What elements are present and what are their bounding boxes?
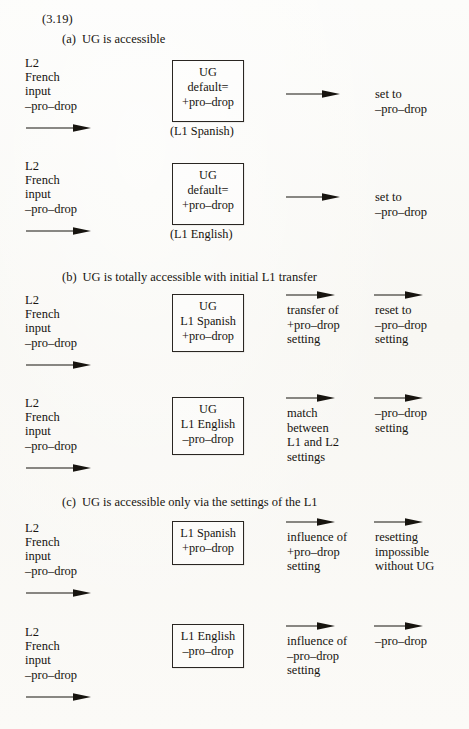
input-line: L2 [25,396,77,410]
step-line: setting [287,663,347,678]
step-line: resetting [375,530,434,545]
transition-arrow-c1-2 [373,516,423,528]
step-column-b1-2: reset to –pro–drop setting [375,303,427,347]
input-line: L2 [25,159,77,173]
ug-box-line: +pro–drop [173,329,243,344]
step-line: +pro–drop [287,545,347,560]
outcome-column-a2: set to –pro–drop [375,190,427,219]
example-number: (3.19) [42,12,73,27]
section-heading-b: (b)UG is totally accessible with initial… [62,270,317,285]
transition-arrow-b1-2 [373,289,423,301]
outcome-line: –pro–drop [375,102,427,117]
l1-box-c2: L1 English –pro–drop [172,624,244,668]
ug-box-line: UG [173,168,243,183]
outcome-column-a1: set to –pro–drop [375,87,427,116]
step-column-b2-2: –pro–drop setting [375,406,427,435]
input-line: –pro–drop [25,202,77,216]
section-label-c: (c) [62,495,76,509]
step-line: without UG [375,559,434,574]
input-line: –pro–drop [25,99,77,113]
l1-box-line: L1 English [173,629,243,644]
step-line: settings [287,450,339,465]
input-line: input [25,321,77,335]
section-heading-a: (a)UG is accessible [62,32,165,47]
step-line: –pro–drop [287,649,347,664]
outcome-line: –pro–drop [375,205,427,220]
step-line: –pro–drop [375,634,427,649]
input-line: L2 [25,293,77,307]
transition-arrow-b2-1 [285,392,335,404]
outcome-line: set to [375,87,427,102]
input-arrow-b2 [25,462,91,474]
ug-box-line: UG [173,65,243,80]
step-line: L1 and L2 [287,435,339,450]
step-line: influence of [287,530,347,545]
input-column-c1: L2 French input –pro–drop [25,521,77,578]
input-line: input [25,187,77,201]
step-line: impossible [375,545,434,560]
transition-arrow-c2-2 [373,620,423,632]
ug-box-b1: UG L1 Spanish +pro–drop [172,294,244,352]
step-column-c2-1: influence of –pro–drop setting [287,634,347,678]
input-column-c2: L2 French input –pro–drop [25,625,77,682]
input-column-b2: L2 French input –pro–drop [25,396,77,453]
transition-arrow-c1-1 [285,516,335,528]
input-line: French [25,307,77,321]
input-line: French [25,173,77,187]
step-line: –pro–drop [375,406,427,421]
section-title-c: UG is accessible only via the settings o… [82,495,318,509]
input-line: input [25,653,77,667]
input-line: –pro–drop [25,668,77,682]
outcome-line: set to [375,190,427,205]
section-title-a: UG is accessible [82,32,165,46]
step-column-b1-1: transfer of +pro–drop setting [287,303,340,347]
ug-box-line: +pro–drop [173,198,243,213]
step-line: match [287,406,339,421]
ug-box-a1: UG default= +pro–drop [172,60,244,122]
l1-box-line: L1 Spanish [173,526,243,541]
step-column-c1-2: resetting impossible without UG [375,530,434,574]
step-line: influence of [287,634,347,649]
section-label-a: (a) [62,32,76,46]
transition-arrow-a1 [285,88,340,100]
input-line: French [25,639,77,653]
transition-arrow-c2-1 [285,620,335,632]
input-column-b1: L2 French input –pro–drop [25,293,77,350]
input-line: L2 [25,56,77,70]
step-line: transfer of [287,303,340,318]
input-line: L2 [25,625,77,639]
input-line: French [25,410,77,424]
section-label-b: (b) [62,270,77,284]
step-line: setting [287,332,340,347]
ug-box-caption-a2: (L1 English) [170,227,233,242]
l1-box-line: +pro–drop [173,541,243,556]
step-column-b2-1: match between L1 and L2 settings [287,406,339,464]
ug-box-line: L1 English [173,417,243,432]
ug-box-line: UG [173,299,243,314]
l1-box-c1: L1 Spanish +pro–drop [172,521,244,565]
step-line: setting [375,421,427,436]
input-line: –pro–drop [25,336,77,350]
ug-box-line: default= [173,183,243,198]
input-line: L2 [25,521,77,535]
step-line: +pro–drop [287,318,340,333]
transition-arrow-b2-2 [373,392,423,404]
step-line: –pro–drop [375,318,427,333]
step-line: setting [375,332,427,347]
input-line: –pro–drop [25,439,77,453]
transition-arrow-b1-1 [285,289,335,301]
input-line: French [25,535,77,549]
ug-box-line: –pro–drop [173,432,243,447]
l1-box-line: –pro–drop [173,644,243,659]
input-arrow-a1 [25,122,91,134]
step-line: reset to [375,303,427,318]
ug-box-b2: UG L1 English –pro–drop [172,397,244,455]
input-line: input [25,424,77,438]
input-line: –pro–drop [25,564,77,578]
ug-box-line: +pro–drop [173,95,243,110]
step-line: setting [287,559,347,574]
input-arrow-c1 [25,587,91,599]
ug-box-a2: UG default= +pro–drop [172,163,244,225]
section-heading-c: (c)UG is accessible only via the setting… [62,495,318,510]
input-line: input [25,549,77,563]
